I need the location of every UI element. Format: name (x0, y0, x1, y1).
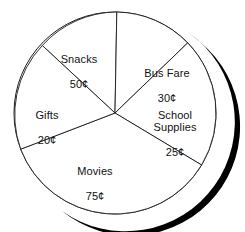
pie-chart-figure: Snacks 50¢ Bus Fare 30¢ School Supplies … (0, 0, 245, 232)
pie-chart-graphic (0, 0, 245, 232)
pie-slices (15, 12, 216, 214)
